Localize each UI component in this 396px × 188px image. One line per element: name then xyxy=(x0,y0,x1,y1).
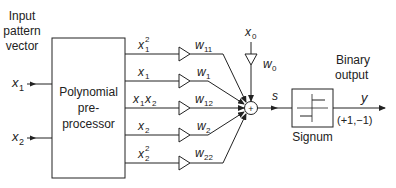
arrow-icon xyxy=(271,106,278,111)
svg-text:x: x xyxy=(137,147,145,161)
svg-text:Input: Input xyxy=(9,9,36,23)
svg-text:x: x xyxy=(244,25,252,39)
svg-text:x: x xyxy=(132,92,140,106)
input-pattern-vector-label: Input pattern vector xyxy=(3,9,40,53)
svg-text:Binary: Binary xyxy=(336,53,370,67)
svg-text:x: x xyxy=(11,129,19,144)
arrow-icon xyxy=(30,136,36,141)
svg-text:1: 1 xyxy=(145,72,150,81)
svg-text:2: 2 xyxy=(19,137,24,147)
svg-text:Polynomial: Polynomial xyxy=(59,85,118,99)
svg-text:1: 1 xyxy=(19,83,24,93)
svg-text:2: 2 xyxy=(145,154,150,163)
input-x2: x 2 xyxy=(11,129,52,147)
svg-text:2: 2 xyxy=(145,35,150,44)
summing-junction: + xyxy=(245,102,258,115)
svg-text:2: 2 xyxy=(152,99,157,108)
amplifier-triangle-icon xyxy=(179,156,190,170)
amplifier-triangle-icon xyxy=(179,101,190,115)
svg-text:2: 2 xyxy=(145,126,150,135)
svg-text:+: + xyxy=(248,104,253,114)
svg-text:22: 22 xyxy=(204,153,213,162)
amplifier-triangle-icon xyxy=(179,74,190,88)
svg-text:x: x xyxy=(137,119,145,133)
binary-output: Binary output y (+1,−1) xyxy=(333,53,385,126)
svg-text:x: x xyxy=(137,38,145,52)
signum-block: Signum xyxy=(292,89,333,144)
term-x2: x 2 w 2 xyxy=(125,112,244,142)
svg-text:processor: processor xyxy=(62,117,115,131)
amplifier-triangle-icon xyxy=(179,47,190,61)
sum-output-s: s xyxy=(258,89,293,111)
svg-text:x: x xyxy=(144,92,152,106)
amplifier-triangle-icon xyxy=(245,54,257,65)
svg-text:1: 1 xyxy=(206,72,211,81)
svg-text:vector: vector xyxy=(6,39,39,53)
svg-text:0: 0 xyxy=(272,64,277,73)
svg-text:y: y xyxy=(360,90,369,105)
polynomial-classifier-diagram: Input pattern vector x 1 x 2 Polynomial … xyxy=(0,0,396,188)
polynomial-preprocessor-box: Polynomial pre- processor xyxy=(52,38,125,178)
svg-text:output: output xyxy=(335,68,369,82)
svg-text:12: 12 xyxy=(204,99,213,108)
svg-text:2: 2 xyxy=(145,144,150,153)
svg-text:(+1,−1): (+1,−1) xyxy=(337,114,372,126)
arrow-icon xyxy=(30,82,36,87)
svg-text:1: 1 xyxy=(145,45,150,54)
svg-text:x: x xyxy=(137,65,145,79)
svg-text:s: s xyxy=(272,89,278,103)
svg-text:11: 11 xyxy=(204,45,213,54)
svg-text:pre-: pre- xyxy=(78,101,99,115)
svg-text:0: 0 xyxy=(252,32,257,41)
input-x1: x 1 xyxy=(11,75,52,93)
amplifier-triangle-icon xyxy=(179,128,190,142)
term-x1-x2: x 1 x 2 w 12 xyxy=(125,92,244,115)
svg-text:pattern: pattern xyxy=(3,24,40,38)
svg-text:x: x xyxy=(11,75,19,90)
svg-text:2: 2 xyxy=(206,126,211,135)
svg-text:Signum: Signum xyxy=(292,130,333,144)
